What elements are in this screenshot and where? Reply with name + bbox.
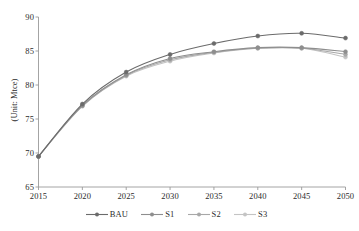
series-line <box>39 33 346 156</box>
data-point-marker <box>37 154 41 158</box>
data-point-marker <box>168 52 172 56</box>
y-axis-tick-label: 80 <box>14 80 34 90</box>
y-axis-tick-label: 75 <box>14 114 34 124</box>
data-point-marker <box>212 42 216 46</box>
x-axis-tick-label: 2020 <box>66 191 98 201</box>
x-axis-tick-label: 2035 <box>198 191 230 201</box>
series-group <box>37 31 348 158</box>
data-point-marker <box>212 50 216 54</box>
legend-label: BAU <box>110 209 129 219</box>
data-point-marker <box>124 70 128 74</box>
legend-label: S2 <box>212 209 221 219</box>
data-point-marker <box>168 56 172 60</box>
legend-item-s1[interactable]: S1 <box>141 209 174 219</box>
legend-label: S1 <box>165 209 174 219</box>
legend-swatch-icon <box>141 210 163 219</box>
y-axis-tick-label: 65 <box>14 182 34 192</box>
data-point-marker <box>344 50 348 54</box>
legend-label: S3 <box>258 209 267 219</box>
x-axis-tick-label: 2015 <box>23 191 55 201</box>
x-axis-tick-label: 2030 <box>154 191 186 201</box>
legend-item-s2[interactable]: S2 <box>188 209 221 219</box>
x-axis-tick-label: 2050 <box>330 191 359 201</box>
legend-item-s3[interactable]: S3 <box>234 209 267 219</box>
y-axis-tick-label: 85 <box>14 46 34 56</box>
data-point-marker <box>80 102 84 106</box>
legend-item-bau[interactable]: BAU <box>86 209 129 219</box>
chart-legend: BAUS1S2S3 <box>0 209 353 219</box>
x-axis-tick-label: 2045 <box>286 191 318 201</box>
legend-swatch-icon <box>86 210 108 219</box>
y-axis-tick-label: 90 <box>14 12 34 22</box>
x-axis-tick-label: 2025 <box>110 191 142 201</box>
legend-swatch-icon <box>188 210 210 219</box>
data-point-marker <box>256 34 260 38</box>
y-axis-tick-label: 70 <box>14 148 34 158</box>
legend-swatch-icon <box>234 210 256 219</box>
data-point-marker <box>300 46 304 50</box>
data-point-marker <box>344 36 348 40</box>
data-point-marker <box>300 31 304 35</box>
x-axis-tick-label: 2040 <box>242 191 274 201</box>
data-point-marker <box>256 46 260 50</box>
